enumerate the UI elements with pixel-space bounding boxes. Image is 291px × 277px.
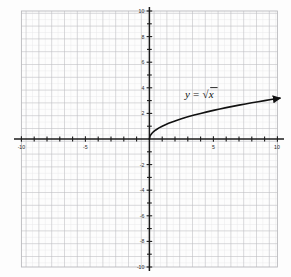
y-tick-label: -8 [140,238,145,244]
y-tick-label: -6 [140,213,145,219]
x-tick-label: 10 [274,144,280,150]
svg-text:y=√x: y=√x [184,88,214,100]
y-tick-label: 8 [142,34,145,40]
y-tick-label: 2 [142,110,145,116]
y-tick-label: 10 [139,8,145,14]
y-tick-label: -10 [137,264,145,270]
y-tick-label: -2 [140,162,145,168]
y-tick-label: 6 [142,59,145,65]
equation-y: y [184,88,190,100]
equation-x: x [208,88,214,100]
equation-equals: = [193,88,199,100]
x-tick-label: 5 [212,144,215,150]
y-tick-label: -4 [140,187,145,193]
x-tick-label: -10 [18,144,26,150]
y-tick-label: 4 [142,85,145,91]
coordinate-plane: -10 -5 5 10 10 8 6 4 2 -2 -4 -6 -8 -10 y… [0,0,291,277]
x-tick-label: -5 [83,144,88,150]
graph-figure: -10 -5 5 10 10 8 6 4 2 -2 -4 -6 -8 -10 y… [0,0,291,277]
